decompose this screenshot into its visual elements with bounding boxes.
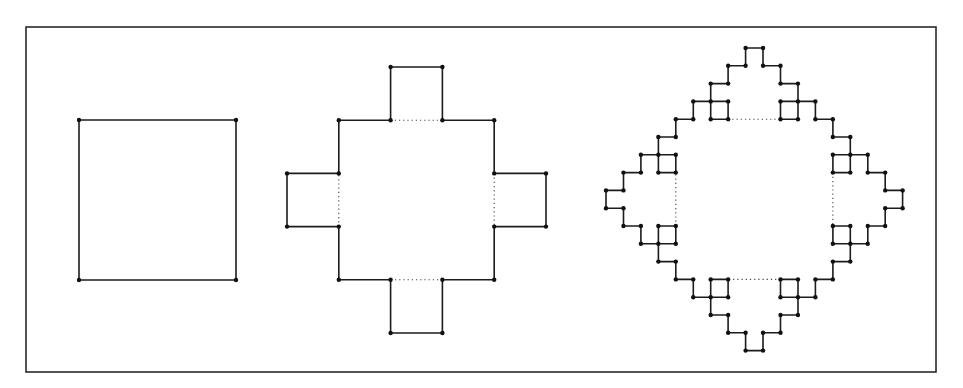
vertex-dot <box>778 81 782 85</box>
vertex-dot <box>778 313 782 317</box>
vertex-dot <box>900 206 904 210</box>
vertex-dot <box>778 64 782 68</box>
vertex-dot <box>813 295 817 299</box>
vertex-dot <box>285 171 289 175</box>
vertex-dot <box>866 224 870 228</box>
vertex-dot <box>492 224 496 228</box>
vertex-dot <box>848 259 852 263</box>
vertex-dot <box>709 277 713 281</box>
vertex-dot <box>639 153 643 157</box>
vertex-dot <box>796 313 800 317</box>
vertex-dot <box>726 99 730 103</box>
vertex-dot <box>621 206 625 210</box>
vertex-dot <box>831 224 835 228</box>
vertex-dot <box>831 170 835 174</box>
vertex-dot <box>691 99 695 103</box>
vertex-dot <box>848 135 852 139</box>
vertex-dot <box>604 188 608 192</box>
vertex-dot <box>639 224 643 228</box>
vertex-dot <box>900 188 904 192</box>
vertex-dot <box>544 171 548 175</box>
vertex-dot <box>778 295 782 299</box>
vertex-dot <box>726 81 730 85</box>
vertex-dot <box>674 224 678 228</box>
vertex-dot <box>831 277 835 281</box>
vertex-dot <box>337 171 341 175</box>
vertex-dot <box>388 118 392 122</box>
vertex-dot <box>743 331 747 335</box>
vertex-dot <box>656 153 660 157</box>
vertex-dot <box>709 295 713 299</box>
vertex-dot <box>674 170 678 174</box>
curve-path <box>287 67 546 333</box>
vertex-dot <box>440 118 444 122</box>
vertex-dot <box>709 313 713 317</box>
vertex-dot <box>709 81 713 85</box>
vertex-dot <box>709 99 713 103</box>
koch-diagram <box>0 0 963 388</box>
vertex-dot <box>883 188 887 192</box>
vertex-dot <box>656 224 660 228</box>
figure-frame <box>26 27 936 372</box>
curve-path <box>606 48 903 351</box>
vertex-dot <box>726 331 730 335</box>
vertex-dot <box>234 278 238 282</box>
vertex-dot <box>709 117 713 121</box>
vertex-dot <box>691 295 695 299</box>
vertex-dot <box>761 348 765 352</box>
vertex-dot <box>691 277 695 281</box>
vertex-dot <box>77 278 81 282</box>
vertex-dot <box>848 170 852 174</box>
vertex-dot <box>674 242 678 246</box>
vertex-dot <box>848 153 852 157</box>
vertex-dot <box>778 117 782 121</box>
vertex-dot <box>492 171 496 175</box>
vertex-dot <box>726 313 730 317</box>
vertex-dot <box>866 170 870 174</box>
vertex-dot <box>883 170 887 174</box>
vertex-dot <box>796 277 800 281</box>
vertex-dot <box>831 242 835 246</box>
vertex-dot <box>831 259 835 263</box>
vertex-dot <box>77 118 81 122</box>
vertex-dot <box>234 118 238 122</box>
vertex-dot <box>813 117 817 121</box>
vertex-dot <box>639 242 643 246</box>
vertex-dot <box>656 259 660 263</box>
vertex-dot <box>656 242 660 246</box>
vertex-dot <box>778 99 782 103</box>
vertex-dot <box>440 331 444 335</box>
vertex-dot <box>726 117 730 121</box>
curve-path <box>79 120 236 280</box>
vertex-dot <box>866 153 870 157</box>
vertex-dot <box>621 188 625 192</box>
vertex-dot <box>656 135 660 139</box>
vertex-dot <box>796 295 800 299</box>
vertex-dot <box>337 224 341 228</box>
iteration-2-shape <box>604 46 905 353</box>
vertex-dot <box>813 99 817 103</box>
vertex-dot <box>761 64 765 68</box>
vertex-dot <box>761 331 765 335</box>
vertex-dot <box>674 259 678 263</box>
vertex-dot <box>440 65 444 69</box>
vertex-dot <box>674 153 678 157</box>
vertex-dot <box>726 277 730 281</box>
vertex-dot <box>544 224 548 228</box>
vertex-dot <box>285 224 289 228</box>
vertex-dot <box>813 277 817 281</box>
vertex-dot <box>761 46 765 50</box>
vertex-dot <box>388 331 392 335</box>
vertex-dot <box>883 224 887 228</box>
vertex-dot <box>831 153 835 157</box>
vertex-dot <box>831 117 835 121</box>
vertex-dot <box>796 81 800 85</box>
vertex-dot <box>674 117 678 121</box>
vertex-dot <box>674 277 678 281</box>
vertex-dot <box>796 99 800 103</box>
vertex-dot <box>604 206 608 210</box>
vertex-dot <box>691 117 695 121</box>
vertex-dot <box>656 170 660 174</box>
vertex-dot <box>848 242 852 246</box>
vertex-dot <box>778 277 782 281</box>
